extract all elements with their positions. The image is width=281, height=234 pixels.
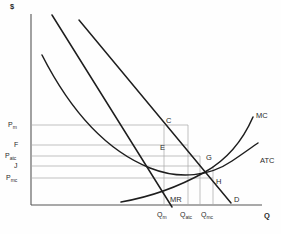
y-tick-pm-sub: m <box>13 124 17 130</box>
y-tick-j: J <box>14 162 18 171</box>
y-tick-f-base: F <box>14 141 18 148</box>
curve-label-atc: ATC <box>260 157 274 164</box>
economics-monopoly-chart: $ Q Pm F Patc J Pmc Qm Qatc Qmc C E G H … <box>0 0 281 234</box>
x-tick-qmc: Qmc <box>201 211 213 220</box>
y-tick-patc: Patc <box>5 152 16 161</box>
x-axis-label: Q <box>264 212 270 219</box>
price-gridlines <box>31 125 213 178</box>
y-tick-pmc: Pmc <box>6 174 17 183</box>
annotation-point-h: H <box>216 178 221 185</box>
curve-label-mc: MC <box>256 112 268 119</box>
y-tick-j-base: J <box>14 162 18 169</box>
x-tick-qmc-sub: mc <box>206 214 213 220</box>
annotation-point-c: C <box>166 117 171 124</box>
x-tick-qatc-sub: atc <box>185 214 192 220</box>
annotation-point-e: E <box>160 144 165 151</box>
demand-curve <box>79 20 231 203</box>
y-axis-label: $ <box>10 3 14 10</box>
x-tick-qm: Qm <box>157 211 167 220</box>
y-tick-patc-sub: atc <box>10 155 17 161</box>
annotation-point-g: G <box>206 154 212 161</box>
axes <box>31 14 262 205</box>
curve-label-mr: MR <box>170 196 182 203</box>
x-tick-qm-sub: m <box>162 214 166 220</box>
y-tick-pmc-sub: mc <box>11 177 18 183</box>
curve-label-d: D <box>234 196 239 203</box>
y-tick-pm: Pm <box>8 121 17 130</box>
x-tick-qatc: Qatc <box>180 211 192 220</box>
quantity-droplines <box>164 125 213 205</box>
y-tick-f: F <box>14 141 18 150</box>
